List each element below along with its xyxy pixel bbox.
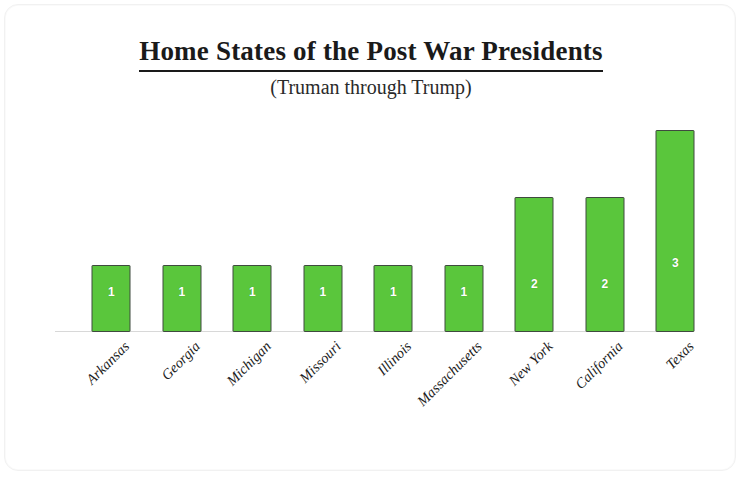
bar-value-label: 2 xyxy=(516,277,553,291)
x-axis-label: Georgia xyxy=(158,338,204,384)
bar[interactable]: 2 xyxy=(515,197,554,332)
bar-chart: Home States of the Post War Presidents (… xyxy=(0,0,742,477)
bar-value-label: 3 xyxy=(657,256,694,270)
bar-slot: 2 xyxy=(499,110,570,332)
plot-area: 111111223 xyxy=(55,110,691,332)
bar-value-label: 1 xyxy=(234,285,271,299)
x-axis-label: Arkansas xyxy=(83,338,133,388)
x-axis-label: Massachusetts xyxy=(414,338,486,410)
bar[interactable]: 3 xyxy=(656,130,695,332)
bar-slot: 1 xyxy=(288,110,359,332)
bar-slot: 1 xyxy=(358,110,429,332)
chart-page: Home States of the Post War Presidents (… xyxy=(0,0,742,477)
x-axis-label: Missouri xyxy=(296,338,344,386)
bar[interactable]: 1 xyxy=(303,265,342,332)
x-axis-label: New York xyxy=(505,338,556,389)
chart-title: Home States of the Post War Presidents xyxy=(0,36,742,72)
bar-value-label: 1 xyxy=(375,285,412,299)
x-axis-label: Michigan xyxy=(223,338,274,389)
bar-slot: 1 xyxy=(429,110,500,332)
bar-slot: 1 xyxy=(217,110,288,332)
bar-value-label: 1 xyxy=(93,285,130,299)
bar[interactable]: 1 xyxy=(233,265,272,332)
bar-slot: 3 xyxy=(640,110,711,332)
bar[interactable]: 1 xyxy=(162,265,201,332)
bar-value-label: 1 xyxy=(163,285,200,299)
x-axis-label: California xyxy=(572,338,627,393)
bar-slot: 1 xyxy=(76,110,147,332)
bar-slot: 2 xyxy=(570,110,641,332)
bar[interactable]: 1 xyxy=(92,265,131,332)
bar[interactable]: 1 xyxy=(444,265,483,332)
x-axis-label: Illinois xyxy=(374,338,415,379)
x-axis-label: Texas xyxy=(662,338,697,373)
chart-title-text: Home States of the Post War Presidents xyxy=(139,36,603,72)
bar-slot: 1 xyxy=(147,110,218,332)
bar-value-label: 2 xyxy=(586,277,623,291)
bar[interactable]: 1 xyxy=(374,265,413,332)
bar-value-label: 1 xyxy=(445,285,482,299)
bar[interactable]: 2 xyxy=(585,197,624,332)
bar-value-label: 1 xyxy=(304,285,341,299)
chart-subtitle: (Truman through Trump) xyxy=(0,76,742,99)
